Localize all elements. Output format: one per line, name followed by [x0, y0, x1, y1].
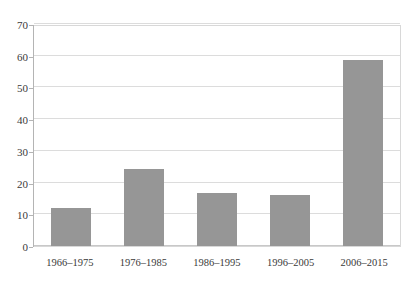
y-axis-tick-label: 0: [0, 241, 28, 253]
y-axis-tick-label: 20: [0, 178, 28, 190]
y-axis-tick-mark: [29, 215, 33, 216]
x-axis-tick-label: 1976–1985: [107, 252, 181, 276]
y-axis-tick-label: 10: [0, 209, 28, 221]
x-axis-tick-label: 1966–1975: [33, 252, 107, 276]
y-axis-tick-label: 60: [0, 51, 28, 63]
y-axis-tick-label: 30: [0, 146, 28, 158]
y-axis-tick-labels: 010203040506070: [0, 0, 410, 284]
y-axis-tick-mark: [29, 120, 33, 121]
x-axis-tick-labels: 1966–19751976–19851986–19951996–20052006…: [33, 252, 401, 276]
y-axis-tick-mark: [29, 247, 33, 248]
y-axis-tick-label: 70: [0, 19, 28, 31]
x-axis-tick-label: 2006–2015: [327, 252, 401, 276]
y-axis-tick-mark: [29, 57, 33, 58]
y-axis-tick-mark: [29, 25, 33, 26]
x-axis-tick-label: 1986–1995: [180, 252, 254, 276]
x-axis-tick-label: 1996–2005: [254, 252, 328, 276]
bar-chart: 010203040506070 1966–19751976–19851986–1…: [0, 0, 410, 284]
y-axis-tick-mark: [29, 184, 33, 185]
y-axis-tick-mark: [29, 152, 33, 153]
y-axis-tick-label: 40: [0, 114, 28, 126]
y-axis-tick-label: 50: [0, 82, 28, 94]
y-axis-tick-mark: [29, 88, 33, 89]
